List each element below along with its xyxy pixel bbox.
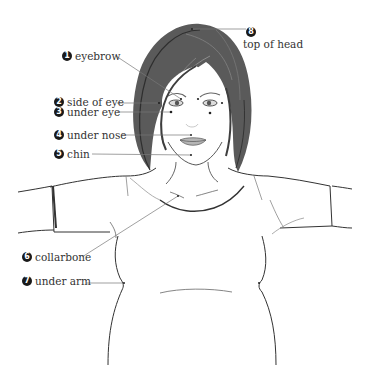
number-badge-7: 7 (22, 276, 32, 286)
label-text-collarbone: collarbone (35, 251, 91, 263)
number-badge-6: 6 (22, 252, 32, 262)
shirt (18, 168, 352, 365)
neck (166, 162, 218, 184)
label-eyebrow: 1 eyebrow (62, 50, 120, 62)
label-text-under-nose: under nose (67, 129, 127, 141)
figure-illustration (0, 0, 370, 385)
label-top-of-head: 8 top of head (243, 24, 303, 50)
number-badge-5: 5 (54, 149, 64, 159)
label-text-eyebrow: eyebrow (75, 50, 120, 62)
number-badge-8: 8 (246, 27, 256, 37)
leader-collarbone (82, 196, 178, 257)
label-under-arm: 7 under arm (22, 275, 91, 287)
label-text-top-of-head: top of head (243, 38, 303, 50)
label-text-chin: chin (67, 148, 90, 160)
number-badge-1: 1 (62, 51, 72, 61)
number-badge-4: 4 (54, 130, 64, 140)
face (161, 66, 230, 165)
label-chin: 5 chin (54, 148, 90, 160)
label-text-under-eye: under eye (67, 106, 120, 118)
label-under-eye: 3 under eye (54, 106, 120, 118)
label-collarbone: 6 collarbone (22, 251, 91, 263)
label-text-under-arm: under arm (35, 275, 91, 287)
number-badge-3: 3 (54, 107, 64, 117)
tapping-points-diagram: 1 eyebrow 2 side of eye 3 under eye 4 un… (0, 0, 370, 385)
label-under-nose: 4 under nose (54, 129, 127, 141)
